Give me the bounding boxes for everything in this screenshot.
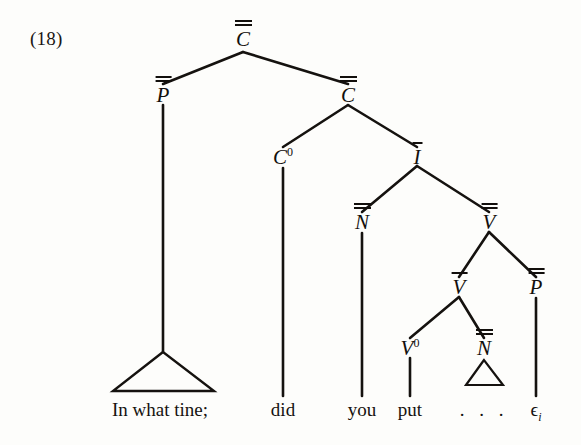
node-c-zero: C0 (273, 146, 293, 168)
node-p-double-bar-specifier: P (157, 84, 170, 106)
edge-cp-to-spec-pp (163, 52, 243, 84)
terminal-object-ellipsis: . . . (460, 400, 509, 419)
terminal-trace-index: i (538, 410, 541, 424)
node-c-zero-superscript: 0 (287, 145, 293, 159)
edge-v-bar-lower-to-v0 (410, 297, 459, 338)
node-n-double-bar-object-label: N (477, 337, 491, 359)
terminal-trace: ϵi (530, 400, 541, 423)
terminal-subject: you (348, 400, 377, 419)
node-v-zero-label: V (401, 337, 414, 359)
terminal-trace-symbol: ϵ (530, 399, 538, 420)
node-i-bar: I (414, 146, 421, 168)
terminal-aux: did (271, 400, 295, 419)
node-n-double-bar-object: N (477, 337, 491, 359)
node-v-zero-superscript: 0 (413, 336, 419, 350)
node-i-bar-label: I (414, 146, 421, 168)
figure-canvas: (18) (0, 0, 581, 445)
edge-v-bar-upper-to-v-bar-lower (459, 232, 489, 277)
edge-v-bar-lower-to-np-object (459, 297, 484, 338)
terminal-fronted-phrase: In what tine; (112, 400, 208, 419)
node-p-double-bar-complement: P (530, 276, 543, 298)
node-c-double-bar: C (236, 28, 250, 50)
node-c-bar: C (341, 84, 355, 106)
node-p-double-bar-complement-label: P (530, 276, 543, 298)
node-n-double-bar-subject-label: N (355, 211, 369, 233)
triangle-np-object (466, 360, 503, 385)
edge-i-bar-to-v-bar-upper (417, 166, 489, 212)
node-n-double-bar-subject: N (355, 211, 369, 233)
node-v-bar-upper-label: V (483, 211, 496, 233)
edge-c-bar-to-i-bar (348, 105, 417, 147)
node-c-zero-label: C (273, 146, 287, 168)
node-v-bar-lower: V (453, 276, 466, 298)
edge-cp-to-c-bar (243, 52, 348, 84)
edge-v-bar-upper-to-pp-complement (489, 232, 536, 277)
node-p-double-bar-specifier-label: P (157, 84, 170, 106)
edge-c-bar-to-c0 (283, 105, 348, 147)
node-c-bar-label: C (341, 84, 355, 106)
triangle-fronted-phrase (113, 352, 214, 391)
node-v-bar-upper: V (483, 211, 496, 233)
node-v-zero: V0 (401, 337, 420, 359)
terminal-verb: put (398, 400, 422, 419)
node-c-double-bar-label: C (236, 28, 250, 50)
node-v-bar-lower-label: V (453, 276, 466, 298)
edge-i-bar-to-np-subject (362, 166, 417, 212)
